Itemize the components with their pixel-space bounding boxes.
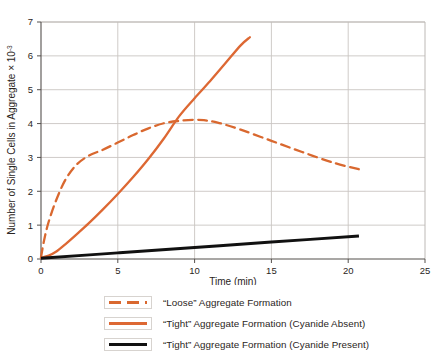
y-tick-label: 6 xyxy=(28,50,33,61)
y-tick-label: 4 xyxy=(28,118,33,129)
legend-line-sample xyxy=(109,301,147,304)
legend-swatch xyxy=(104,338,152,351)
y-axis-title-exponent: -3 xyxy=(6,45,13,51)
legend-label: “Tight” Aggregate Formation (Cyanide Pre… xyxy=(163,339,369,350)
legend-item[interactable]: “Loose” Aggregate Formation xyxy=(0,292,444,313)
plot-area: 01234567 0510152025 Time (min) Number of… xyxy=(0,0,444,285)
x-tick-label: 0 xyxy=(38,265,43,276)
x-tick-label: 10 xyxy=(189,265,200,276)
legend-label: “Tight” Aggregate Formation (Cyanide Abs… xyxy=(163,318,365,329)
x-tick-label: 20 xyxy=(343,265,354,276)
legend-label: “Loose” Aggregate Formation xyxy=(163,297,292,308)
y-tick-label: 0 xyxy=(28,253,33,264)
y-axis-ticks: 01234567 xyxy=(28,16,41,264)
y-tick-label: 5 xyxy=(28,84,33,95)
svg-text:Number of Single Cells in Aggr: Number of Single Cells in Aggregate × 10… xyxy=(6,45,17,235)
x-axis-title: Time (min) xyxy=(209,276,256,285)
y-tick-label: 1 xyxy=(28,220,33,231)
plot-background xyxy=(41,22,425,259)
x-tick-label: 25 xyxy=(420,265,431,276)
x-tick-label: 5 xyxy=(115,265,120,276)
legend-line-sample xyxy=(109,343,147,347)
legend-item[interactable]: “Tight” Aggregate Formation (Cyanide Abs… xyxy=(0,313,444,334)
y-tick-label: 3 xyxy=(28,152,33,163)
y-tick-label: 2 xyxy=(28,186,33,197)
chart-legend: “Loose” Aggregate Formation“Tight” Aggre… xyxy=(0,292,444,358)
legend-swatch xyxy=(104,296,152,309)
legend-swatch xyxy=(104,317,152,330)
y-axis-title-main: Number of Single Cells in Aggregate × 10 xyxy=(6,51,17,235)
x-tick-label: 15 xyxy=(266,265,277,276)
y-tick-label: 7 xyxy=(28,16,33,27)
legend-line-sample xyxy=(109,322,147,325)
chart-figure: 01234567 0510152025 Time (min) Number of… xyxy=(0,0,444,358)
legend-item[interactable]: “Tight” Aggregate Formation (Cyanide Pre… xyxy=(0,334,444,355)
x-axis-ticks: 0510152025 xyxy=(38,259,430,276)
line-chart-svg: 01234567 0510152025 Time (min) Number of… xyxy=(0,0,444,285)
y-axis-title: Number of Single Cells in Aggregate × 10… xyxy=(6,45,17,235)
